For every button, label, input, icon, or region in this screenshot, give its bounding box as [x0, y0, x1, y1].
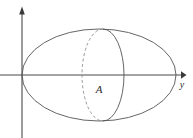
- figure-canvas: A y: [0, 0, 193, 138]
- cross-section-area-label: A: [95, 83, 103, 95]
- vertical-axis-arrowhead-icon: [19, 7, 25, 15]
- solid-of-revolution-figure: A y: [0, 0, 193, 138]
- axis-label-y: y: [179, 79, 185, 90]
- horizontal-axis-arrowhead-icon: [181, 71, 187, 78]
